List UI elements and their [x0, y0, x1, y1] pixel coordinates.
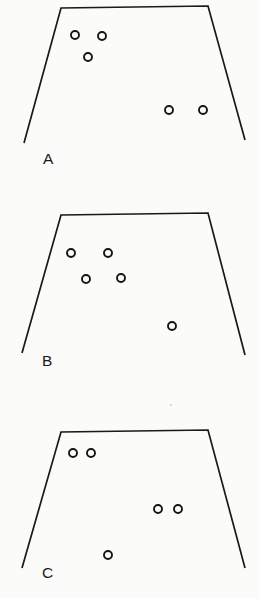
- panel-a-marker-5[interactable]: [199, 106, 207, 114]
- panel-b-outline: [22, 213, 245, 355]
- panel-c-marker-4[interactable]: [174, 505, 182, 513]
- panel-c-marker-1[interactable]: [69, 449, 77, 457]
- panel-a-label: A: [43, 150, 54, 167]
- panel-a-marker-3[interactable]: [84, 53, 92, 61]
- panel-b-group[interactable]: B: [22, 213, 245, 369]
- panel-c-outline: [22, 430, 245, 568]
- panel-a-outline: [24, 6, 245, 143]
- panel-c-marker-5[interactable]: [104, 551, 112, 559]
- panel-c-marker-2[interactable]: [87, 449, 95, 457]
- diagram-svg: A B C: [0, 0, 260, 599]
- panel-a-marker-2[interactable]: [98, 32, 106, 40]
- panel-b-label: B: [42, 352, 53, 369]
- panel-c-label: C: [42, 564, 53, 581]
- scan-speck-icon: [170, 404, 172, 406]
- panel-b-marker-3[interactable]: [82, 275, 90, 283]
- panel-c-group[interactable]: C: [22, 430, 245, 581]
- panel-b-marker-5[interactable]: [168, 322, 176, 330]
- panel-a-marker-4[interactable]: [165, 106, 173, 114]
- panel-a-marker-1[interactable]: [71, 31, 79, 39]
- figure-canvas: A B C: [0, 0, 260, 599]
- panel-b-marker-1[interactable]: [67, 249, 75, 257]
- panel-c-marker-3[interactable]: [154, 505, 162, 513]
- panel-a-group[interactable]: A: [24, 6, 245, 167]
- panel-b-marker-4[interactable]: [117, 274, 125, 282]
- panel-b-marker-2[interactable]: [104, 249, 112, 257]
